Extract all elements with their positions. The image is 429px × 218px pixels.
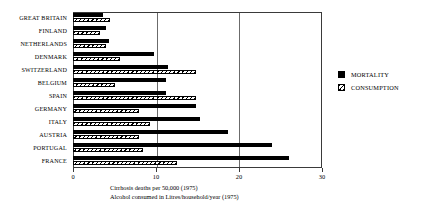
bar-mortality bbox=[73, 143, 272, 147]
bar-mortality bbox=[73, 26, 106, 30]
legend-label: CONSUMPTION bbox=[351, 84, 399, 91]
x-tick-label: 10 bbox=[153, 173, 159, 180]
category-label: SPAIN bbox=[0, 90, 70, 103]
bar-consumption bbox=[73, 31, 100, 35]
bar-mortality bbox=[73, 65, 168, 69]
category-label: FRANCE bbox=[0, 155, 70, 168]
bar-group bbox=[73, 155, 322, 168]
category-label: SWITZERLAND bbox=[0, 64, 70, 77]
bar-mortality bbox=[73, 117, 200, 121]
x-tick-label: 30 bbox=[319, 173, 325, 180]
bar-mortality bbox=[73, 13, 103, 17]
bar-group bbox=[73, 51, 322, 64]
legend-item: MORTALITY bbox=[338, 68, 399, 81]
bar-consumption bbox=[73, 122, 150, 126]
bar-group bbox=[73, 38, 322, 51]
x-tick bbox=[322, 168, 323, 172]
x-tick bbox=[73, 168, 74, 172]
bar-mortality bbox=[73, 39, 109, 43]
category-axis-labels: GREAT BRITAINFINLANDNETHERLANDSDENMARKSW… bbox=[0, 12, 70, 168]
bar-consumption bbox=[73, 148, 143, 152]
bar-group bbox=[73, 77, 322, 90]
bar-chart: GREAT BRITAINFINLANDNETHERLANDSDENMARKSW… bbox=[0, 0, 429, 218]
bar-consumption bbox=[73, 57, 120, 61]
x-tick-label: 0 bbox=[71, 173, 74, 180]
bar-group bbox=[73, 103, 322, 116]
bar-consumption bbox=[73, 44, 106, 48]
x-axis-tick-labels: 0102030 bbox=[0, 173, 429, 183]
category-label: GREAT BRITAIN bbox=[0, 12, 70, 25]
legend-item: CONSUMPTION bbox=[338, 81, 399, 94]
x-tick-label: 20 bbox=[236, 173, 242, 180]
bar-consumption bbox=[73, 109, 139, 113]
x-tick bbox=[239, 168, 240, 172]
category-label: NETHERLANDS bbox=[0, 38, 70, 51]
bar-mortality bbox=[73, 104, 196, 108]
bar-group bbox=[73, 12, 322, 25]
chart-legend: MORTALITYCONSUMPTION bbox=[338, 68, 399, 94]
bar-mortality bbox=[73, 130, 228, 134]
x-tick bbox=[156, 168, 157, 172]
chart-captions: Cirrhosis deaths per 50,000 (1975) Alcoh… bbox=[110, 184, 410, 201]
bar-mortality bbox=[73, 78, 166, 82]
category-label: BELGIUM bbox=[0, 77, 70, 90]
bar-mortality bbox=[73, 91, 166, 95]
bar-group bbox=[73, 25, 322, 38]
bar-group bbox=[73, 129, 322, 142]
solid-square-icon bbox=[338, 71, 345, 78]
category-label: GERMANY bbox=[0, 103, 70, 116]
bar-consumption bbox=[73, 70, 196, 74]
category-label: FINLAND bbox=[0, 25, 70, 38]
bar-consumption bbox=[73, 135, 139, 139]
bar-mortality bbox=[73, 156, 289, 160]
legend-label: MORTALITY bbox=[351, 71, 389, 78]
caption-line-1: Cirrhosis deaths per 50,000 (1975) bbox=[110, 184, 410, 193]
bar-mortality bbox=[73, 52, 154, 56]
bar-group bbox=[73, 142, 322, 155]
bar-consumption bbox=[73, 161, 177, 165]
bars-container bbox=[73, 12, 322, 168]
bar-group bbox=[73, 90, 322, 103]
bar-consumption bbox=[73, 83, 115, 87]
category-label: DENMARK bbox=[0, 51, 70, 64]
category-label: ITALY bbox=[0, 116, 70, 129]
bar-group bbox=[73, 64, 322, 77]
bar-group bbox=[73, 116, 322, 129]
category-label: PORTUGAL bbox=[0, 142, 70, 155]
category-label: AUSTRIA bbox=[0, 129, 70, 142]
hatched-square-icon bbox=[338, 84, 345, 91]
bar-consumption bbox=[73, 18, 110, 22]
bar-consumption bbox=[73, 96, 196, 100]
caption-line-2: Alcohol consumed in Litres/household/yea… bbox=[110, 193, 410, 202]
